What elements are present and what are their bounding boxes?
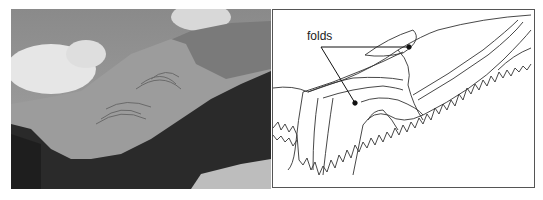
folds-label: folds: [307, 29, 332, 43]
fold-sketch-panel: folds: [272, 9, 535, 188]
mountain-photo: [11, 9, 271, 189]
mountain-photo-image: [11, 9, 271, 189]
